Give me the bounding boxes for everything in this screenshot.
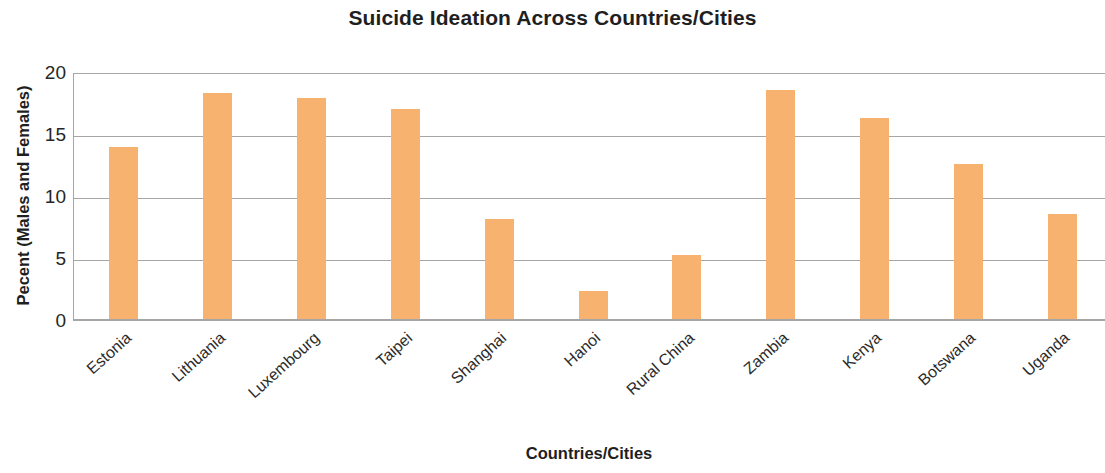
x-axis-tick-label-text: Shanghai [448,329,510,388]
bar [954,164,983,321]
x-axis-tick-label-text: Luxembourg [244,329,322,402]
bar [485,219,514,321]
chart-title: Suicide Ideation Across Countries/Cities [0,6,1105,30]
x-axis-tick-label: Kenya [784,329,885,423]
bar [766,90,795,321]
x-axis-tick-label: Lithuania [128,329,229,423]
x-axis-tick-label: Taipei [315,329,416,423]
y-axis-tick-label: 5 [22,249,66,268]
y-axis-tick-label: 10 [22,187,66,206]
x-axis-title: Countries/Cities [73,444,1105,463]
bar [391,109,420,321]
y-axis-tick-label: 15 [22,125,66,144]
bar [672,255,701,321]
x-axis-tick-label-text: Estonia [83,329,135,378]
bar [109,147,138,321]
y-axis-tick-label: 0 [22,311,66,330]
x-axis-tick-label-text: Taipei [373,329,416,370]
x-axis-tick-label: Botswana [878,329,979,423]
bar [860,118,889,321]
bar [579,291,608,321]
bar [1048,214,1077,321]
plot-area [73,73,1105,321]
x-axis-tick-label: Hanoi [503,329,604,423]
bar [203,93,232,321]
bar-series [74,74,1105,321]
x-axis-tick-label-text: Lithuania [168,329,228,386]
x-axis-tick-label: Uganda [972,329,1073,423]
x-axis-tick-label-text: Rural China [623,329,698,399]
bar [297,98,326,321]
x-axis-tick-label-text: Zambia [740,329,792,378]
x-axis-tick-label: Zambia [690,329,791,423]
x-axis-tick-label-text: Uganda [1019,329,1073,380]
y-axis-tick-label: 20 [22,63,66,82]
x-axis-tick-label-text: Hanoi [561,329,604,370]
x-axis-tick-label-text: Kenya [840,329,886,373]
x-axis-tick-label: Shanghai [409,329,510,423]
x-axis-tick-label: Luxembourg [221,329,322,423]
x-axis-tick-labels: EstoniaLithuaniaLuxembourgTaipeiShanghai… [73,321,1105,431]
x-axis-tick-label: Rural China [597,329,698,423]
x-axis-tick-label-text: Botswana [915,329,979,389]
